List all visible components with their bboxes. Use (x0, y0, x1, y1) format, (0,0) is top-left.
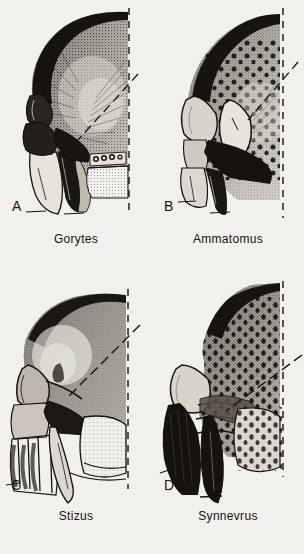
mouthparts-c (10, 401, 88, 503)
caption-stizus: Stizus (0, 509, 152, 523)
panel-letter-a: A (12, 198, 21, 214)
figure-plate: A B C D Gorytes Ammatomus Stizus Synnevr… (0, 0, 304, 554)
panel-letter-b: B (164, 198, 173, 214)
panel-letter-c: C (11, 477, 21, 493)
gena-d (234, 407, 282, 472)
caption-ammatomus: Ammatomus (152, 232, 304, 246)
caption-synnevrus: Synnevrus (152, 509, 304, 523)
clypeal-bead-row-a (90, 152, 126, 166)
gena-a (87, 166, 128, 198)
panel-letter-d: D (164, 477, 174, 493)
caption-gorytes: Gorytes (0, 232, 152, 246)
